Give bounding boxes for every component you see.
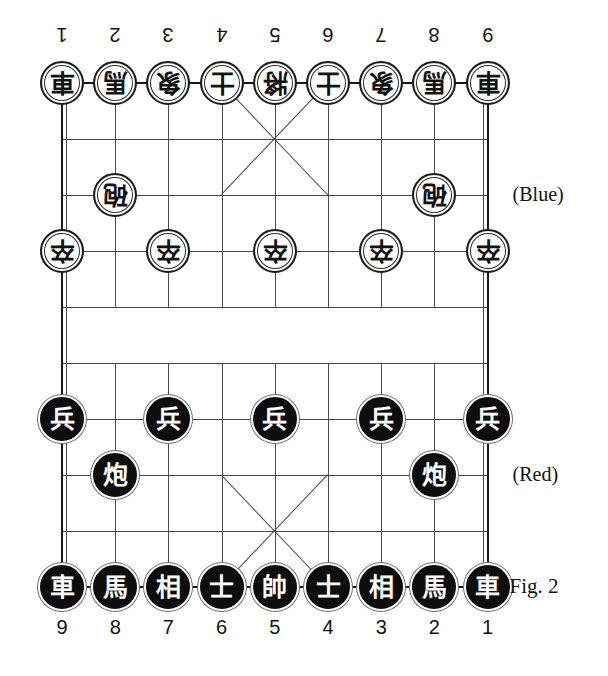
- piece-glyph: 砲: [422, 183, 447, 208]
- piece-red-chariot[interactable]: 車: [40, 565, 84, 609]
- piece-glyph: 車: [475, 71, 500, 96]
- file-label-top-7: 7: [366, 23, 396, 46]
- piece-glyph: 車: [50, 575, 75, 600]
- file-label-top-5: 5: [260, 23, 290, 46]
- piece-glyph: 車: [50, 71, 75, 96]
- file-line-inner-1: [66, 83, 67, 587]
- piece-red-general[interactable]: 帥: [253, 565, 297, 609]
- piece-glyph: 兵: [475, 407, 500, 432]
- file-label-bottom-6: 6: [207, 616, 237, 639]
- side-label-blue: (Blue): [513, 183, 564, 206]
- piece-glyph: 卒: [475, 239, 500, 264]
- piece-blue-advisor[interactable]: 士: [200, 61, 244, 105]
- piece-glyph: 砲: [103, 183, 128, 208]
- piece-glyph: 卒: [156, 239, 181, 264]
- file-label-top-2: 2: [100, 23, 130, 46]
- piece-red-horse[interactable]: 馬: [93, 565, 137, 609]
- file-label-bottom-7: 7: [153, 616, 183, 639]
- file-label-bottom-8: 8: [100, 616, 130, 639]
- piece-blue-elephant[interactable]: 象: [359, 61, 403, 105]
- piece-glyph: 士: [316, 71, 341, 96]
- piece-red-pawn[interactable]: 兵: [40, 397, 84, 441]
- piece-red-cannon[interactable]: 炮: [93, 453, 137, 497]
- piece-blue-chariot[interactable]: 車: [466, 61, 510, 105]
- piece-glyph: 馬: [103, 575, 128, 600]
- piece-glyph: 士: [316, 575, 341, 600]
- file-line-1: [61, 83, 63, 587]
- piece-red-elephant[interactable]: 相: [359, 565, 403, 609]
- file-label-bottom-3: 3: [366, 616, 396, 639]
- piece-blue-cannon[interactable]: 砲: [93, 173, 137, 217]
- piece-red-pawn[interactable]: 兵: [359, 397, 403, 441]
- piece-blue-general[interactable]: 將: [253, 61, 297, 105]
- piece-glyph: 相: [156, 575, 181, 600]
- file-line-inner-9: [483, 83, 484, 587]
- piece-glyph: 兵: [262, 407, 287, 432]
- file-line-9: [487, 83, 489, 587]
- xiangqi-figure: 車馬象士將士象馬車砲砲卒卒卒卒卒兵兵兵兵兵炮炮車馬相士帥士相馬車 1234567…: [0, 0, 608, 676]
- file-line-6-lower: [328, 363, 329, 587]
- piece-glyph: 兵: [50, 407, 75, 432]
- file-line-4-upper: [222, 83, 223, 307]
- piece-red-advisor[interactable]: 士: [200, 565, 244, 609]
- piece-blue-pawn[interactable]: 卒: [253, 229, 297, 273]
- file-label-top-1: 1: [47, 23, 77, 46]
- file-label-bottom-5: 5: [260, 616, 290, 639]
- piece-glyph: 士: [209, 71, 234, 96]
- file-label-top-8: 8: [419, 23, 449, 46]
- piece-glyph: 將: [262, 71, 287, 96]
- piece-glyph: 兵: [369, 407, 394, 432]
- file-label-top-3: 3: [153, 23, 183, 46]
- piece-red-pawn[interactable]: 兵: [466, 397, 510, 441]
- piece-glyph: 相: [369, 575, 394, 600]
- file-line-3-upper: [168, 83, 169, 307]
- file-label-top-6: 6: [313, 23, 343, 46]
- piece-blue-chariot[interactable]: 車: [40, 61, 84, 105]
- file-label-bottom-2: 2: [419, 616, 449, 639]
- side-label-red: (Red): [513, 463, 559, 486]
- file-label-bottom-1: 1: [473, 616, 503, 639]
- piece-glyph: 炮: [103, 463, 128, 488]
- piece-blue-horse[interactable]: 馬: [93, 61, 137, 105]
- file-label-bottom-4: 4: [313, 616, 343, 639]
- piece-glyph: 卒: [369, 239, 394, 264]
- file-label-bottom-9: 9: [47, 616, 77, 639]
- piece-glyph: 卒: [50, 239, 75, 264]
- piece-blue-advisor[interactable]: 士: [306, 61, 350, 105]
- piece-blue-pawn[interactable]: 卒: [40, 229, 84, 273]
- file-line-5-upper: [275, 83, 276, 307]
- piece-glyph: 卒: [262, 239, 287, 264]
- piece-glyph: 士: [209, 575, 234, 600]
- piece-glyph: 馬: [422, 71, 447, 96]
- piece-red-pawn[interactable]: 兵: [253, 397, 297, 441]
- piece-glyph: 馬: [103, 71, 128, 96]
- file-label-top-4: 4: [207, 23, 237, 46]
- piece-glyph: 兵: [156, 407, 181, 432]
- piece-glyph: 象: [369, 71, 394, 96]
- rank-line-4: [62, 307, 488, 308]
- piece-red-advisor[interactable]: 士: [306, 565, 350, 609]
- piece-glyph: 象: [156, 71, 181, 96]
- piece-blue-pawn[interactable]: 卒: [359, 229, 403, 273]
- piece-glyph: 炮: [422, 463, 447, 488]
- piece-red-chariot[interactable]: 車: [466, 565, 510, 609]
- piece-blue-pawn[interactable]: 卒: [466, 229, 510, 273]
- piece-glyph: 帥: [262, 575, 287, 600]
- piece-glyph: 馬: [422, 575, 447, 600]
- file-label-top-9: 9: [473, 23, 503, 46]
- piece-glyph: 車: [475, 575, 500, 600]
- file-line-7-upper: [381, 83, 382, 307]
- figure-caption: Fig. 2: [510, 574, 559, 599]
